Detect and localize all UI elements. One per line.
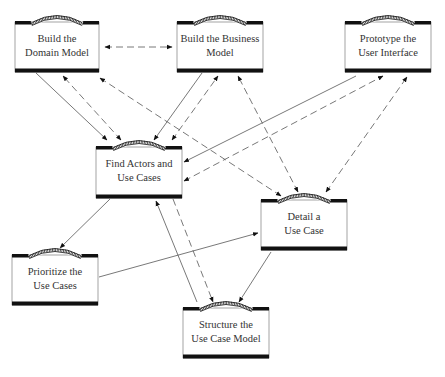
flow-prototype-to-find [184, 76, 356, 162]
flow-detail-to-prototype [326, 77, 407, 192]
activity-label: Prioritize the [28, 266, 83, 277]
flow-detail-to-structure [239, 252, 271, 302]
bottom-bar [345, 69, 431, 73]
activity-label: Use Cases [117, 172, 160, 183]
flow-domain-to-find [36, 73, 107, 140]
activity-structure[interactable]: Structure theUse Case Model [183, 302, 269, 359]
activity-find[interactable]: Find Actors andUse Cases [96, 141, 182, 199]
activity-business[interactable]: Build the BusinessModel [177, 16, 263, 73]
workflow-diagram: Build theDomain ModelBuild the BusinessM… [0, 0, 445, 377]
activity-label: Find Actors and [105, 158, 173, 169]
top-bar [412, 21, 431, 25]
activity-label: Use Case Model [191, 333, 260, 344]
activity-label: Model [206, 47, 233, 58]
activity-label: Use Cases [33, 280, 76, 291]
top-bar [163, 146, 182, 150]
flow-business-to-find [154, 73, 202, 140]
activity-label: Use Case [284, 225, 324, 236]
bottom-bar [96, 195, 182, 199]
top-bar [79, 254, 98, 258]
activity-prototype[interactable]: Prototype theUser Interface [345, 16, 431, 73]
top-bar [96, 146, 115, 150]
top-bar [80, 21, 99, 25]
bottom-bar [261, 247, 347, 251]
flow-find-to-prioritize [60, 199, 110, 248]
activity-label: Structure the [199, 319, 253, 330]
flow-find-to-structure [173, 199, 213, 302]
top-bar [345, 21, 364, 25]
top-bar [261, 199, 280, 203]
bottom-bar [177, 69, 263, 73]
bottom-bar [15, 69, 99, 73]
top-bar [250, 307, 269, 311]
top-bar [12, 254, 31, 258]
activity-prioritize[interactable]: Prioritize theUse Cases [12, 249, 98, 306]
flow-prioritize-to-detail [99, 233, 258, 277]
activity-label: Build the Business [181, 33, 260, 44]
activity-label: Detail a [288, 211, 321, 222]
activity-label: Domain Model [25, 47, 89, 58]
top-bar [15, 21, 34, 25]
activity-label: Prototype the [360, 33, 417, 44]
activity-domain[interactable]: Build theDomain Model [15, 16, 99, 73]
activity-label: Build the [38, 33, 77, 44]
top-bar [328, 199, 347, 203]
activity-label: User Interface [358, 47, 418, 58]
bottom-bar [12, 302, 98, 306]
top-bar [183, 307, 202, 311]
top-bar [177, 21, 196, 25]
flow-find-to-business [172, 76, 218, 140]
activity-detail[interactable]: Detail aUse Case [261, 194, 347, 251]
bottom-bar [183, 355, 269, 359]
top-bar [244, 21, 263, 25]
flow-detail-to-business [238, 76, 298, 192]
flow-find-to-prototype [184, 76, 383, 181]
activities: Build theDomain ModelBuild the BusinessM… [12, 16, 431, 359]
